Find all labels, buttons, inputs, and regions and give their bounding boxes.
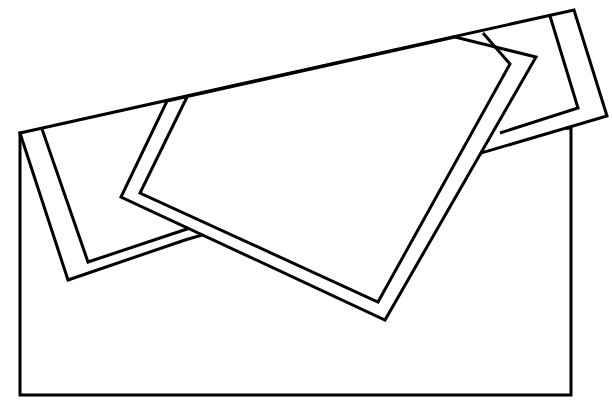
napkin-diagram bbox=[0, 0, 612, 415]
